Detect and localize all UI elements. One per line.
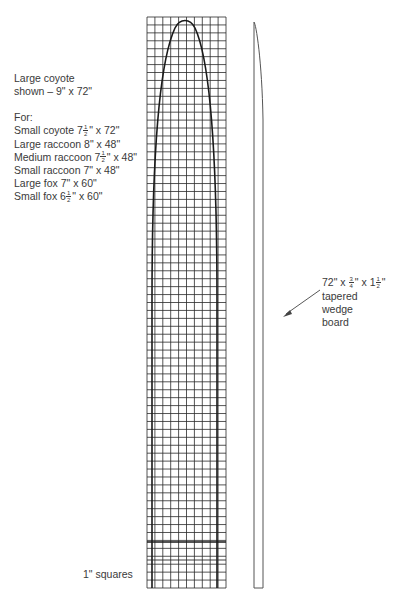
size-row-small-fox: Small fox 612" x 60" [14, 190, 137, 204]
species-size-list: Large coyote shown – 9" x 72" For: Small… [14, 72, 137, 204]
size-row-small-coyote: Small coyote 712" x 72" [14, 124, 137, 138]
fraction-half: 12 [66, 190, 71, 203]
board-label-line3: wedge [322, 303, 386, 316]
pointer-arrow [283, 290, 320, 317]
grid-scale-label: 1" squares [83, 568, 133, 580]
fraction-half: 12 [83, 124, 88, 137]
fraction-half: 12 [100, 150, 105, 163]
board-dimensions: 72" x 34" x 112" [322, 276, 386, 290]
stretcher-outline [152, 21, 217, 589]
board-label-line2: tapered [322, 290, 386, 303]
board-label-line4: board [322, 316, 386, 329]
shown-title-line1: Large coyote [14, 72, 137, 85]
wedge-board-label: 72" x 34" x 112" tapered wedge board [322, 276, 386, 329]
fraction-half: 12 [376, 276, 381, 289]
fraction-three-quarters: 34 [349, 276, 354, 289]
for-heading: For: [14, 111, 137, 124]
size-row-large-raccoon: Large raccoon 8" x 48" [14, 138, 137, 151]
size-row-large-fox: Large fox 7" x 60" [14, 177, 137, 190]
wedge-board [254, 22, 263, 588]
size-row-medium-raccoon: Medium raccoon 712" x 48" [14, 151, 137, 165]
shown-title-line2: shown – 9" x 72" [14, 85, 137, 98]
size-row-small-raccoon: Small raccoon 7" x 48" [14, 164, 137, 177]
